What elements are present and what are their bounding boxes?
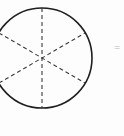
circle-sector-diagram [0,0,124,136]
diagram-background [0,0,124,136]
equals-sign-fragment: = [114,40,124,54]
